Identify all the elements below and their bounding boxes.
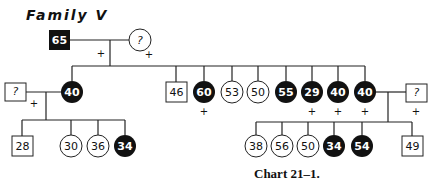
svg-text:49: 49	[406, 140, 420, 153]
svg-text:50: 50	[301, 140, 315, 153]
individual-g2-3: 60	[193, 81, 215, 103]
individual-g3-right-6: 49	[402, 136, 423, 156]
svg-text:56: 56	[275, 140, 289, 153]
individual-g3-right-1: 38	[245, 135, 267, 157]
individual-g3-right-4: 34	[323, 135, 345, 157]
individual-g2-9: 40	[354, 81, 376, 103]
svg-text:29: 29	[304, 86, 319, 99]
individual-g3-right-3: 50	[297, 135, 319, 157]
individual-g3-left-1: 28	[12, 136, 33, 156]
individual-g2-5: 50	[247, 81, 269, 103]
svg-text:38: 38	[249, 140, 263, 153]
individual-g3-left-2: 30	[60, 135, 82, 157]
individual-g3-left-3: 36	[87, 135, 109, 157]
svg-text:55: 55	[278, 86, 293, 99]
plus-marker: +	[361, 106, 369, 117]
plus-marker: +	[412, 106, 420, 117]
individual-g1-father: 65	[49, 30, 70, 50]
individual-g3-left-4: 34	[114, 135, 136, 157]
individual-g3-right-2: 56	[271, 135, 293, 157]
individual-g2-8: 40	[327, 81, 349, 103]
svg-text:65: 65	[52, 34, 67, 47]
individual-g2-7: 29	[301, 81, 323, 103]
svg-text:34: 34	[326, 140, 342, 153]
svg-text:40: 40	[357, 86, 373, 99]
svg-text:54: 54	[354, 140, 370, 153]
svg-text:46: 46	[170, 86, 184, 99]
individual-g3-right-5: 54	[351, 135, 373, 157]
svg-text:40: 40	[330, 86, 346, 99]
chart-caption: Chart 21–1.	[254, 166, 320, 181]
plus-marker: +	[200, 106, 208, 117]
individual-g2-right-spouse: ?	[406, 84, 427, 102]
svg-text:34: 34	[117, 140, 133, 153]
svg-text:?: ?	[137, 34, 143, 47]
svg-text:40: 40	[64, 86, 80, 99]
pedigree-chart: Family V 65	[0, 0, 440, 186]
plus-marker: +	[30, 98, 38, 109]
plus-marker: +	[97, 48, 105, 59]
individual-g2-4: 53	[221, 81, 243, 103]
individual-g2-2: 46	[166, 82, 187, 102]
svg-text:28: 28	[16, 140, 30, 153]
svg-text:50: 50	[251, 86, 265, 99]
individual-g2-left-spouse: ?	[5, 83, 26, 101]
plus-marker: +	[145, 49, 153, 60]
plus-marker: +	[308, 106, 316, 117]
chart-title: Family V	[26, 7, 108, 23]
svg-text:?: ?	[13, 85, 19, 98]
svg-text:?: ?	[414, 86, 420, 99]
svg-text:53: 53	[225, 86, 239, 99]
svg-text:36: 36	[91, 140, 105, 153]
svg-text:30: 30	[64, 140, 78, 153]
pedigree-svg: Family V 65	[0, 0, 440, 186]
individual-g2-6: 55	[275, 81, 297, 103]
individual-g2-1: 40	[61, 81, 83, 103]
plus-marker: +	[334, 106, 342, 117]
svg-text:60: 60	[196, 86, 212, 99]
